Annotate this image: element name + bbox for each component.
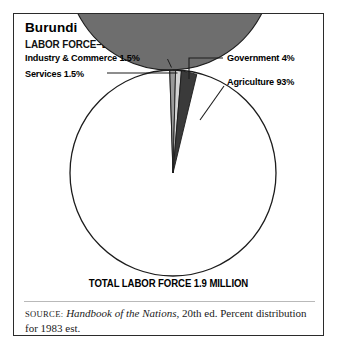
source-label: SOURCE: <box>25 309 63 319</box>
leader-line-agriculture <box>200 86 224 120</box>
source-publication-title: Handbook of the Nations, <box>66 307 179 319</box>
callout-label-industry-commerce: Industry & Commerce 1.5% <box>25 52 140 63</box>
total-labor-force-caption: TOTAL LABOR FORCE 1.9 MILLION <box>20 278 317 289</box>
pie-slice-agriculture <box>67 14 273 173</box>
callout-label-agriculture: Agriculture 93% <box>227 76 294 87</box>
source-note: SOURCE: Handbook of the Nations, 20th ed… <box>25 307 314 335</box>
callout-label-services: Services 1.5% <box>25 68 84 79</box>
figure-panel: Burundi LABOR FORCE–BY OCCUPATION Indust… <box>13 13 324 336</box>
callout-label-government: Government 4% <box>227 52 295 63</box>
source-divider <box>24 301 315 302</box>
